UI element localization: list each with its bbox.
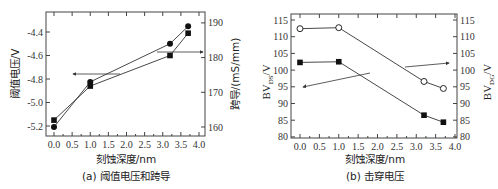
y-right-tick-label: 95 bbox=[460, 81, 470, 92]
x-tick-label: 3.5 bbox=[175, 139, 188, 150]
y-right-tick-label: 85 bbox=[460, 115, 470, 126]
x-tick-label: 2.5 bbox=[391, 141, 404, 152]
chart-a-threshold-transconductance: 0.00.51.01.52.02.53.03.54.0-4.4-4.6-4.8-… bbox=[27, 12, 223, 150]
square-marker bbox=[421, 112, 427, 118]
circle-marker bbox=[185, 23, 191, 29]
ylabel-right-unit: /V bbox=[481, 64, 493, 75]
x-tick-label: 3.0 bbox=[157, 139, 170, 150]
x-tick-label: 4.0 bbox=[449, 141, 462, 152]
y-right-tick-label: 170 bbox=[208, 87, 223, 98]
square-marker bbox=[167, 53, 173, 59]
y-right-tick-label: 105 bbox=[460, 48, 475, 59]
x-tick-label: 3.0 bbox=[410, 141, 423, 152]
open-circle-marker bbox=[336, 25, 342, 31]
y-right-tick-label: 100 bbox=[460, 65, 475, 76]
y-left-tick-label: -4.6 bbox=[27, 50, 43, 61]
square-marker bbox=[185, 30, 191, 36]
chart-a-ylabel-right: 跨导/(mS/mm) bbox=[229, 38, 241, 111]
open-circle-marker bbox=[297, 26, 303, 32]
chart-b-ylabel-right: BVDG/V bbox=[481, 64, 496, 100]
square-marker bbox=[441, 119, 447, 125]
y-left-tick-label: -5.0 bbox=[27, 97, 43, 108]
chart-b-breakdown-voltage: 0.00.51.01.52.02.53.03.54.01151101051009… bbox=[273, 14, 475, 152]
ylabel-right-main: BV bbox=[481, 85, 493, 100]
x-tick-label: 4.0 bbox=[193, 139, 206, 150]
axis-arrow-icon bbox=[303, 73, 370, 87]
y-right-tick-label: 90 bbox=[460, 98, 470, 109]
y-left-tick-label: 110 bbox=[273, 31, 288, 42]
y-left-tick-label: 80 bbox=[278, 131, 288, 142]
y-right-tick-label: 180 bbox=[208, 52, 223, 63]
x-tick-label: 0.0 bbox=[48, 139, 61, 150]
x-tick-label: 2.0 bbox=[371, 141, 384, 152]
x-tick-label: 0.0 bbox=[294, 141, 307, 152]
square-marker bbox=[297, 60, 303, 66]
chart-b-caption: (b) 击穿电压 bbox=[346, 170, 405, 182]
y-right-tick-label: 80 bbox=[460, 131, 470, 142]
plot-frame bbox=[46, 12, 205, 136]
circle-marker bbox=[87, 79, 93, 85]
y-right-tick-label: 115 bbox=[460, 15, 475, 26]
axis-arrow-icon bbox=[405, 63, 449, 67]
x-tick-label: 0.5 bbox=[313, 141, 326, 152]
ylabel-right-sub: DG bbox=[488, 75, 496, 85]
figure: 0.00.51.01.52.02.53.03.54.0-4.4-4.6-4.8-… bbox=[0, 0, 498, 189]
series-line bbox=[54, 33, 188, 120]
chart-a-xlabel: 刻蚀深度/nm bbox=[96, 153, 156, 165]
circle-marker bbox=[51, 124, 57, 130]
plot-frame bbox=[291, 14, 457, 138]
x-tick-label: 2.0 bbox=[120, 139, 133, 150]
chart-a-ylabel-left: 阈值电压/V bbox=[9, 48, 21, 100]
x-tick-label: 1.0 bbox=[333, 141, 346, 152]
square-marker bbox=[336, 59, 342, 65]
y-left-tick-label: 100 bbox=[273, 65, 288, 76]
open-circle-marker bbox=[440, 85, 446, 91]
y-left-tick-label: -5.2 bbox=[27, 121, 43, 132]
ylabel-left-unit: /V bbox=[260, 64, 272, 75]
y-left-tick-label: 115 bbox=[273, 15, 288, 26]
chart-a-caption: (a) 阈值电压和跨导 bbox=[82, 170, 170, 182]
y-left-tick-label: 85 bbox=[278, 115, 288, 126]
x-tick-label: 3.5 bbox=[429, 141, 442, 152]
circle-marker bbox=[167, 41, 173, 47]
x-tick-label: 0.5 bbox=[66, 139, 79, 150]
y-right-tick-label: 110 bbox=[460, 31, 475, 42]
y-right-tick-label: 190 bbox=[208, 17, 223, 28]
x-tick-label: 1.0 bbox=[84, 139, 97, 150]
x-tick-label: 1.5 bbox=[352, 141, 365, 152]
x-tick-label: 1.5 bbox=[102, 139, 115, 150]
chart-b-xlabel: 刻蚀深度/nm bbox=[345, 153, 405, 165]
y-left-tick-label: -4.8 bbox=[27, 74, 43, 85]
open-circle-marker bbox=[421, 78, 427, 84]
ylabel-left-main: BV bbox=[260, 84, 272, 99]
series-line bbox=[54, 26, 188, 127]
y-right-tick-label: 160 bbox=[208, 122, 223, 133]
x-tick-label: 2.5 bbox=[138, 139, 151, 150]
y-left-tick-label: 105 bbox=[273, 48, 288, 59]
y-left-tick-label: -4.4 bbox=[27, 27, 43, 38]
y-left-tick-label: 95 bbox=[278, 81, 288, 92]
square-marker bbox=[51, 117, 57, 123]
ylabel-left-sub: DS bbox=[267, 75, 275, 84]
y-left-tick-label: 90 bbox=[278, 98, 288, 109]
